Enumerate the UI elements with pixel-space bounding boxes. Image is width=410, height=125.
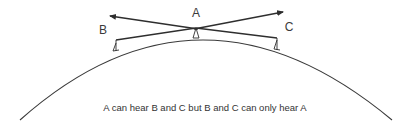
label-c: C	[285, 20, 294, 34]
diagram-caption: A can hear B and C but B and C can only …	[103, 102, 307, 113]
antenna-b-icon	[113, 40, 119, 51]
hidden-node-diagram: A B C A can hear B and C but B and C can…	[0, 0, 410, 125]
label-a: A	[192, 6, 200, 20]
label-b: B	[99, 23, 107, 37]
arrow-to-b	[110, 16, 198, 29]
antenna-c-icon	[274, 38, 280, 50]
arrow-to-c	[194, 12, 283, 29]
antenna-a-icon	[193, 28, 199, 38]
